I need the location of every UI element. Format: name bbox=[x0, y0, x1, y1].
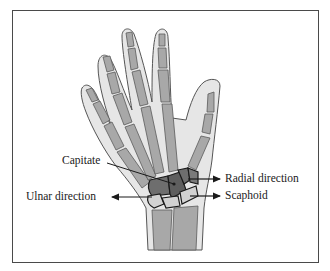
label-ulnar-direction: Ulnar direction bbox=[26, 191, 96, 203]
lunate-bone bbox=[162, 196, 180, 208]
ulna-bone bbox=[152, 210, 172, 250]
hand-skeleton-diagram bbox=[0, 0, 330, 271]
label-capitate: Capitate bbox=[62, 155, 100, 167]
radius-bone bbox=[172, 206, 198, 250]
label-radial-direction: Radial direction bbox=[225, 173, 299, 185]
label-scaphoid: Scaphoid bbox=[225, 190, 268, 202]
capitate-pointer-dot bbox=[172, 182, 175, 185]
